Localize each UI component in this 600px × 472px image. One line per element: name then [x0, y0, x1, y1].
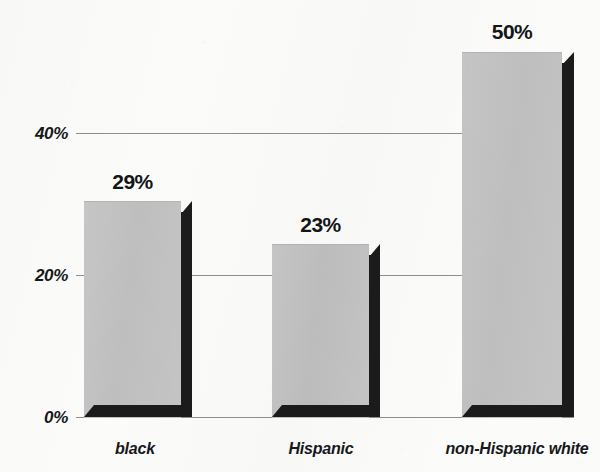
- bar-hispanic[interactable]: [272, 244, 380, 426]
- bar-non-hispanic-white-face: [462, 52, 562, 418]
- tick-stub-40: [76, 133, 88, 134]
- bar-hispanic-face: [272, 244, 369, 418]
- bar-black[interactable]: [84, 201, 192, 426]
- y-tick-label-40: 40%: [6, 124, 68, 144]
- x-tick-label-hispanic: Hispanic: [266, 440, 376, 458]
- bar-non-hispanic-white[interactable]: [462, 52, 574, 426]
- bar-value-label-hispanic: 23%: [272, 213, 369, 237]
- y-tick-label-20: 20%: [6, 266, 68, 286]
- bar-chart-figure: 40% 20% 0% 29% black 23% Hispanic 50%: [0, 0, 600, 472]
- bar-black-side-shadow: [181, 212, 192, 417]
- y-tick-label-0: 0%: [6, 408, 68, 428]
- plot-area: 40% 20% 0% 29% black 23% Hispanic 50%: [0, 0, 600, 472]
- x-tick-label-black: black: [80, 440, 190, 458]
- bar-non-hispanic-white-bottom-shadow: [462, 405, 574, 417]
- bar-hispanic-side-shadow: [369, 255, 380, 417]
- bar-hispanic-bottom-shadow: [272, 405, 380, 417]
- bar-value-label-black: 29%: [84, 170, 181, 194]
- bar-black-bottom-shadow: [84, 405, 192, 417]
- bar-value-label-non-hispanic-white: 50%: [462, 20, 562, 44]
- x-tick-label-non-hispanic-white: non-Hispanic white: [437, 440, 597, 458]
- bar-non-hispanic-white-side-shadow: [562, 63, 574, 417]
- bar-black-face: [84, 201, 181, 418]
